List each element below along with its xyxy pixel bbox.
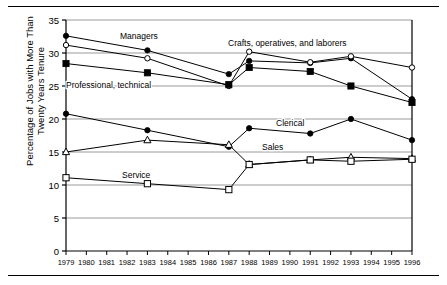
series-marker-crafts-operatives-and-laborers-1983: [145, 56, 150, 61]
x-tick-label-1993: 1993: [343, 258, 360, 267]
series-marker-professional-technical-1993: [348, 83, 354, 89]
x-tick-label-1995: 1995: [383, 258, 400, 267]
y-tick-label-0: 0: [54, 246, 59, 257]
series-marker-crafts-operatives-and-laborers-1991: [308, 60, 313, 65]
y-tick-label-30: 30: [48, 48, 59, 59]
y-tick-label-5: 5: [54, 213, 59, 224]
x-tick-label-1992: 1992: [322, 258, 339, 267]
chart-plot-area: 0510152025303519791980198119821983198419…: [0, 0, 447, 285]
x-tick-label-1990: 1990: [282, 258, 299, 267]
y-tick-label-15: 15: [48, 147, 59, 158]
series-marker-professional-technical-1979: [63, 60, 69, 66]
series-label-professional-technical: Professional, technical: [66, 80, 151, 90]
x-tick-label-1980: 1980: [78, 258, 95, 267]
series-marker-crafts-operatives-and-laborers-1988: [246, 49, 251, 54]
series-label-clerical: Clerical: [276, 118, 304, 128]
series-marker-crafts-operatives-and-laborers-1993: [348, 54, 353, 59]
x-tick-label-1989: 1989: [261, 258, 278, 267]
series-marker-clerical-1993: [348, 116, 353, 121]
series-marker-crafts-operatives-and-laborers-1996: [409, 65, 414, 70]
series-marker-service-1987: [226, 187, 232, 193]
series-marker-clerical-1996: [409, 137, 414, 142]
x-tick-label-1985: 1985: [180, 258, 197, 267]
x-tick-label-1982: 1982: [119, 258, 136, 267]
series-marker-clerical-1988: [246, 126, 251, 131]
series-marker-clerical-1979: [63, 111, 68, 116]
x-tick-label-1987: 1987: [220, 258, 237, 267]
figure: Percentage of Jobs with More Than Twenty…: [0, 0, 447, 285]
series-marker-managers-1983: [145, 48, 150, 53]
series-marker-clerical-1983: [145, 128, 150, 133]
series-label-service: Service: [122, 170, 151, 180]
series-marker-professional-technical-1987: [226, 82, 232, 88]
series-marker-crafts-operatives-and-laborers-1979: [63, 42, 68, 47]
x-tick-label-1984: 1984: [159, 258, 176, 267]
x-tick-label-1988: 1988: [241, 258, 258, 267]
series-label-sales: Sales: [262, 142, 283, 152]
x-tick-label-1994: 1994: [363, 258, 380, 267]
series-marker-service-1988: [246, 161, 252, 167]
series-marker-professional-technical-1983: [144, 70, 150, 76]
series-marker-professional-technical-1988: [246, 64, 252, 70]
y-tick-label-10: 10: [48, 180, 59, 191]
series-marker-professional-technical-1996: [409, 99, 415, 105]
series-marker-service-1983: [144, 181, 150, 187]
series-marker-sales-1983: [144, 136, 151, 143]
x-tick-label-1991: 1991: [302, 258, 319, 267]
series-label-crafts-operatives-and-laborers: Crafts, operatives, and laborers: [228, 38, 347, 48]
y-tick-label-20: 20: [48, 114, 59, 125]
series-marker-service-1991: [307, 157, 313, 163]
series-marker-professional-technical-1991: [307, 68, 313, 74]
x-tick-label-1986: 1986: [200, 258, 217, 267]
y-tick-label-25: 25: [48, 81, 59, 92]
series-marker-service-1993: [348, 158, 354, 164]
x-tick-label-1983: 1983: [139, 258, 156, 267]
series-marker-managers-1987: [226, 71, 231, 76]
series-marker-managers-1979: [63, 33, 68, 38]
series-marker-service-1979: [63, 175, 69, 181]
series-marker-service-1996: [409, 156, 415, 162]
series-marker-clerical-1991: [308, 131, 313, 136]
series-label-managers: Managers: [120, 31, 158, 41]
series-marker-managers-1988: [246, 58, 251, 63]
x-tick-label-1979: 1979: [58, 258, 75, 267]
y-tick-label-35: 35: [48, 15, 59, 26]
x-tick-label-1981: 1981: [98, 258, 115, 267]
x-tick-label-1996: 1996: [404, 258, 421, 267]
